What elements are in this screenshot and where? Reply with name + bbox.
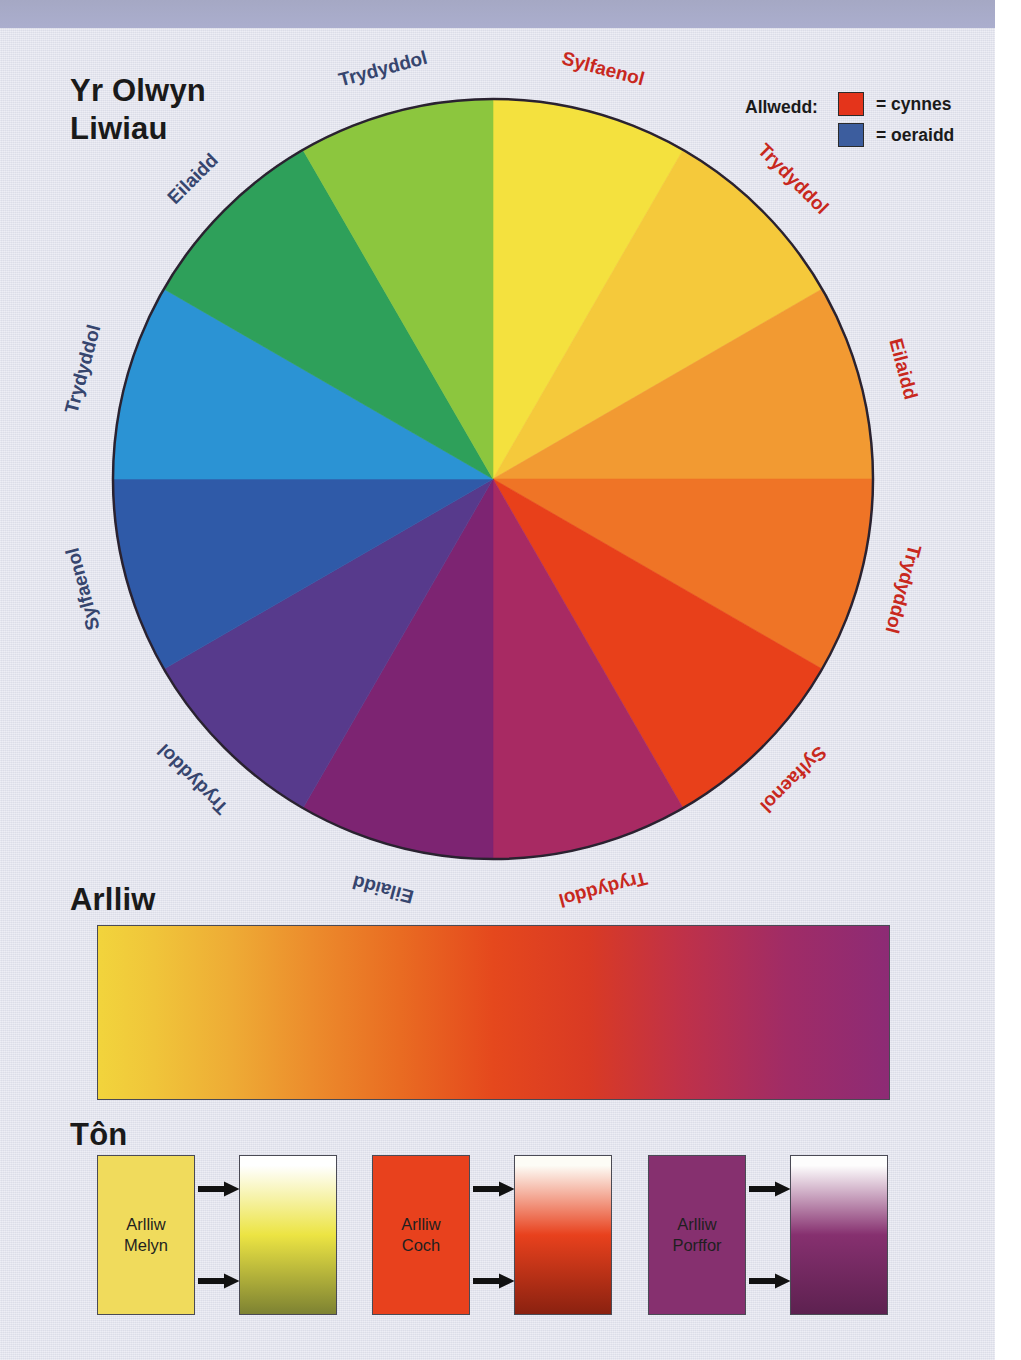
ton-swatch-label-line2: Melyn [124,1236,168,1254]
page-right-margin [995,0,1021,1360]
ton-swatch-label-line2: Coch [402,1236,441,1254]
arrow-icon-bot-2 [473,1273,515,1289]
arrow-icon-top-1 [198,1181,240,1197]
page-title-line1: Yr Olwyn [70,73,206,108]
legend-swatch-warm [838,92,864,116]
ton-swatch-label-3: ArlliwPorffor [672,1214,721,1256]
wheel-segment-group [113,99,873,859]
ton-solid-swatch-2: ArlliwCoch [372,1155,470,1315]
arrow-icon-bot-3 [749,1273,791,1289]
colour-wheel [78,84,908,874]
ton-gradient-swatch-1 [239,1155,337,1315]
ton-swatch-label-2: ArlliwCoch [401,1214,440,1256]
section-title-ton: Tôn [70,1117,127,1153]
ton-solid-swatch-3: ArlliwPorffor [648,1155,746,1315]
colour-wheel-svg [78,84,908,874]
ton-gradient-swatch-2 [514,1155,612,1315]
ton-group-row: ArlliwMelynArlliwCochArlliwPorffor [0,1155,995,1320]
page-title: Yr Olwyn Liwiau [70,72,300,148]
ton-swatch-label-line2: Porffor [672,1236,721,1254]
ton-solid-swatch-1: ArlliwMelyn [97,1155,195,1315]
section-title-arlliw: Arlliw [70,882,156,918]
legend: Allwedd: = cynnes = oeraidd [745,92,985,154]
legend-text-cool: = oeraidd [876,125,954,146]
legend-text-warm: = cynnes [876,94,951,115]
ton-swatch-label-1: ArlliwMelyn [124,1214,168,1256]
arrow-icon-bot-1 [198,1273,240,1289]
page-title-line2: Liwiau [70,111,168,146]
arrow-icon-top-3 [749,1181,791,1197]
ton-swatch-label-line1: Arlliw [401,1215,440,1233]
page-canvas: SylfaenolTrydyddolEilaiddTrydyddolSylfae… [0,0,1021,1360]
legend-swatch-cool [838,123,864,147]
arlliw-gradient-bar [97,925,890,1100]
legend-title: Allwedd: [745,97,818,118]
arrow-icon-top-2 [473,1181,515,1197]
ton-swatch-label-line1: Arlliw [126,1215,165,1233]
ton-swatch-label-line1: Arlliw [677,1215,716,1233]
ton-gradient-swatch-3 [790,1155,888,1315]
page-top-band [0,0,995,28]
